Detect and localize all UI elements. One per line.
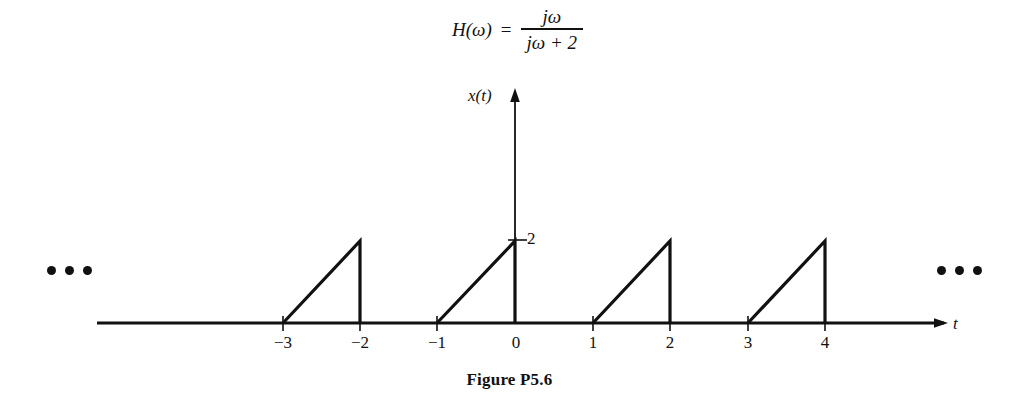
x-tick-label-0: 0 <box>512 333 521 353</box>
x-tick-label-4: 4 <box>821 333 830 353</box>
sawtooth-waveform <box>283 241 825 323</box>
y-axis-tick-label-2: 2 <box>527 229 536 249</box>
x-tick-label-1: 1 <box>589 333 598 353</box>
x-tick-label-minus-3: −3 <box>274 333 292 353</box>
figure-page: H(ω) = jω jω + 2 <box>0 0 1019 401</box>
x-tick-label-2: 2 <box>666 333 675 353</box>
right-continuation-ellipsis-icon <box>937 266 982 275</box>
x-axis-label: t <box>953 314 958 334</box>
x-tick-label-minus-2: −2 <box>351 333 369 353</box>
figure-caption: Figure P5.6 <box>0 370 1019 390</box>
left-continuation-ellipsis-icon <box>47 266 92 275</box>
x-tick-label-3: 3 <box>744 333 753 353</box>
waveform-plot <box>0 0 1019 401</box>
x-tick-label-minus-1: −1 <box>428 333 446 353</box>
y-axis-label: x(t) <box>468 86 492 106</box>
t-axis <box>97 318 948 328</box>
